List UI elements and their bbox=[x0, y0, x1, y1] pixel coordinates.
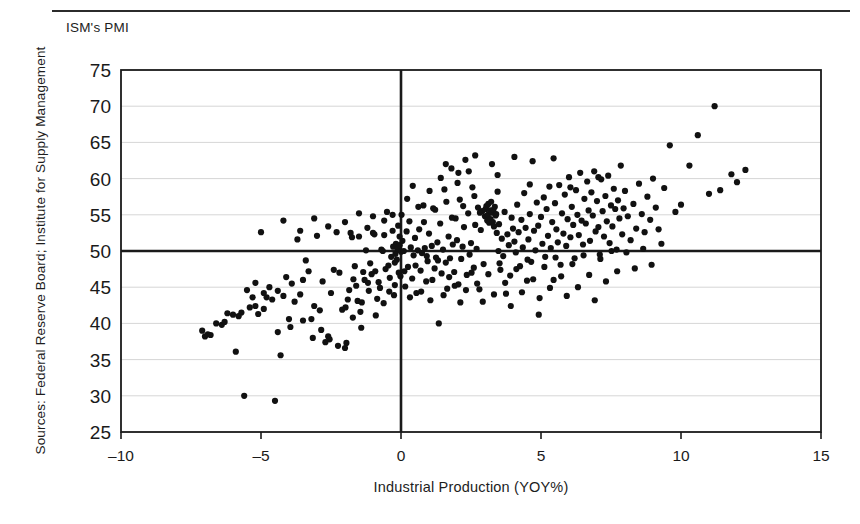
scatter-plot-canvas bbox=[0, 0, 860, 524]
scatter-point bbox=[353, 283, 359, 289]
scatter-point bbox=[327, 336, 333, 342]
scatter-point bbox=[580, 252, 586, 258]
scatter-point bbox=[358, 325, 364, 331]
scatter-point bbox=[411, 252, 417, 258]
scatter-point bbox=[535, 223, 541, 229]
scatter-point bbox=[524, 257, 530, 263]
scatter-point bbox=[564, 293, 570, 299]
scatter-point bbox=[551, 277, 557, 283]
scatter-point bbox=[421, 219, 427, 225]
scatter-point bbox=[496, 260, 502, 266]
scatter-point bbox=[678, 202, 684, 208]
scatter-point bbox=[595, 224, 601, 230]
x-axis-title: Industrial Production (YOY%) bbox=[121, 479, 821, 495]
scatter-point bbox=[272, 398, 278, 404]
scatter-point bbox=[336, 270, 342, 276]
scatter-point bbox=[412, 262, 418, 268]
scatter-point bbox=[532, 247, 538, 253]
scatter-point bbox=[418, 288, 424, 294]
scatter-point bbox=[587, 238, 593, 244]
scatter-point bbox=[527, 181, 533, 187]
scatter-point bbox=[495, 172, 501, 178]
scatter-point bbox=[402, 283, 408, 289]
scatter-point bbox=[605, 173, 611, 179]
scatter-point bbox=[524, 278, 530, 284]
scatter-point bbox=[352, 263, 358, 269]
scatter-point bbox=[469, 184, 475, 190]
scatter-point bbox=[444, 286, 450, 292]
scatter-point bbox=[474, 280, 480, 286]
scatter-point bbox=[385, 262, 391, 268]
scatter-point bbox=[415, 204, 421, 210]
scatter-point bbox=[247, 304, 253, 310]
scatter-point bbox=[199, 328, 205, 334]
reference-lines-group bbox=[121, 70, 821, 432]
scatter-point bbox=[478, 227, 484, 233]
scatter-point bbox=[523, 225, 529, 231]
scatter-point bbox=[661, 185, 667, 191]
scatter-point bbox=[499, 236, 505, 242]
scatter-point bbox=[628, 237, 634, 243]
scatter-point bbox=[489, 161, 495, 167]
scatter-point bbox=[438, 175, 444, 181]
scatter-point bbox=[656, 226, 662, 232]
scatter-point bbox=[460, 244, 466, 250]
scatter-point bbox=[546, 183, 552, 189]
scatter-point bbox=[300, 277, 306, 283]
scatter-point bbox=[530, 276, 536, 282]
scatter-point bbox=[407, 294, 413, 300]
scatter-point bbox=[502, 280, 508, 286]
scatter-point bbox=[592, 297, 598, 303]
scatter-point bbox=[594, 198, 600, 204]
scatter-points-group bbox=[199, 103, 748, 404]
scatter-point bbox=[672, 209, 678, 215]
scatter-point bbox=[342, 219, 348, 225]
scatter-point bbox=[586, 207, 592, 213]
scatter-point bbox=[541, 194, 547, 200]
scatter-point bbox=[432, 207, 438, 213]
scatter-point bbox=[374, 296, 380, 302]
scatter-point bbox=[531, 228, 537, 234]
scatter-point bbox=[485, 271, 491, 277]
scatter-point bbox=[452, 283, 458, 289]
scatter-point bbox=[252, 303, 258, 309]
scatter-point bbox=[395, 223, 401, 229]
y-tick-label: 70 bbox=[65, 97, 111, 116]
scatter-point bbox=[518, 217, 524, 223]
scatter-point bbox=[320, 278, 326, 284]
scatter-point bbox=[458, 256, 464, 262]
scatter-point bbox=[576, 232, 582, 238]
scatter-point bbox=[527, 211, 533, 217]
scatter-point bbox=[409, 275, 415, 281]
scatter-point bbox=[213, 320, 219, 326]
scatter-point bbox=[573, 187, 579, 193]
scatter-point bbox=[457, 299, 463, 305]
scatter-point bbox=[504, 231, 510, 237]
scatter-point bbox=[494, 230, 500, 236]
scatter-point bbox=[521, 190, 527, 196]
scatter-point bbox=[357, 309, 363, 315]
scatter-point bbox=[480, 299, 486, 305]
scatter-point bbox=[509, 215, 515, 221]
scatter-point bbox=[310, 335, 316, 341]
scatter-point bbox=[261, 290, 267, 296]
scatter-point bbox=[639, 211, 645, 217]
scatter-point bbox=[513, 249, 519, 255]
scatter-point bbox=[278, 352, 284, 358]
scatter-point bbox=[275, 329, 281, 335]
scatter-point bbox=[416, 226, 422, 232]
scatter-point bbox=[390, 228, 396, 234]
scatter-point bbox=[441, 186, 447, 192]
scatter-point bbox=[300, 317, 306, 323]
scatter-point bbox=[471, 193, 477, 199]
scatter-point bbox=[574, 212, 580, 218]
y-tick-label: 50 bbox=[65, 242, 111, 261]
scatter-point bbox=[468, 240, 474, 246]
scatter-point bbox=[476, 286, 482, 292]
scatter-point bbox=[258, 229, 264, 235]
scatter-point bbox=[435, 257, 441, 263]
scatter-point bbox=[567, 234, 573, 240]
scatter-point bbox=[604, 218, 610, 224]
scatter-point bbox=[294, 236, 300, 242]
scatter-point bbox=[424, 253, 430, 259]
